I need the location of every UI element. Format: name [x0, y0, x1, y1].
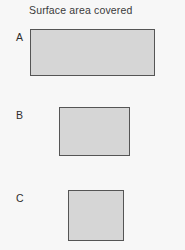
rectangle-label-a: A: [16, 31, 23, 43]
figure-title: Surface area covered: [29, 4, 132, 17]
area-rectangle-b: [59, 107, 130, 156]
rectangle-label-c: C: [16, 192, 24, 204]
surface-area-figure: Surface area covered A B C: [0, 0, 185, 250]
rectangle-label-b: B: [16, 109, 23, 121]
area-rectangle-c: [68, 190, 124, 241]
area-rectangle-a: [30, 29, 155, 76]
